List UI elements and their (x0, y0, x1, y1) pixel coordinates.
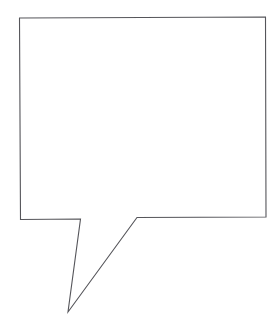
drawing-canvas (0, 0, 279, 335)
speech-bubble-svg (0, 0, 279, 335)
